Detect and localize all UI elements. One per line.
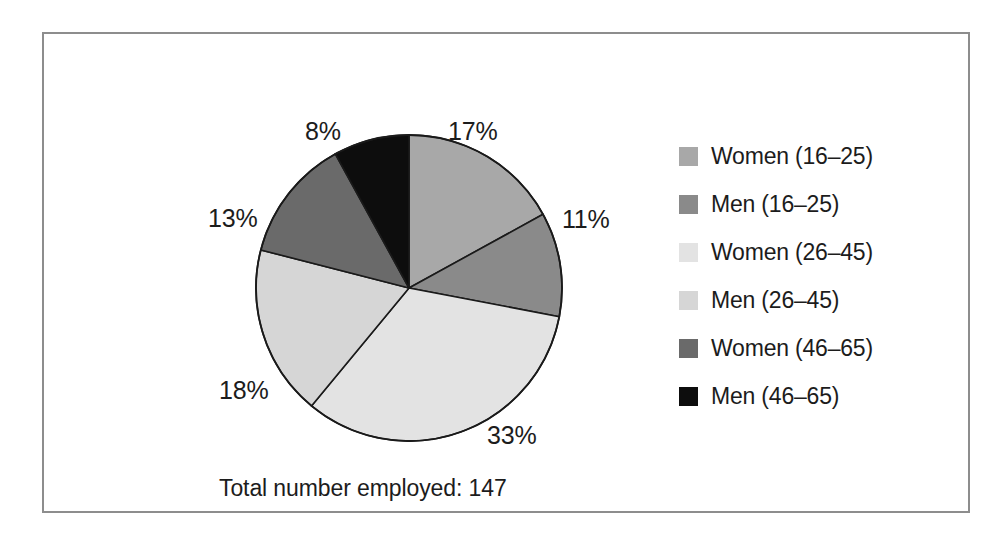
legend-row-0: Women (16–25) — [679, 132, 979, 180]
legend-swatch-icon-3 — [679, 291, 698, 310]
legend-swatch-icon-5 — [679, 387, 698, 406]
legend-row-3: Men (26–45) — [679, 276, 979, 324]
slice-label-men-16-25: 11% — [562, 205, 610, 234]
legend-label-1: Men (16–25) — [711, 191, 839, 218]
chart-frame: 17% 11% 33% 18% 13% 8% Total number empl… — [42, 32, 970, 513]
slice-label-women-26-45: 33% — [487, 421, 536, 450]
legend-label-0: Women (16–25) — [711, 143, 873, 170]
legend-row-4: Women (46–65) — [679, 324, 979, 372]
legend-swatch-icon-2 — [679, 243, 698, 262]
chart-canvas: 17% 11% 33% 18% 13% 8% Total number empl… — [0, 0, 1006, 542]
slice-label-women-46-65: 13% — [208, 204, 257, 233]
legend-row-1: Men (16–25) — [679, 180, 979, 228]
chart-legend: Women (16–25)Men (16–25)Women (26–45)Men… — [679, 132, 979, 420]
legend-swatch-icon-0 — [679, 147, 698, 166]
chart-caption: Total number employed: 147 — [219, 475, 507, 502]
pie-slice-group — [256, 135, 562, 441]
pie-chart — [249, 128, 569, 448]
legend-row-2: Women (26–45) — [679, 228, 979, 276]
slice-label-women-16-25: 17% — [448, 117, 497, 146]
legend-label-5: Men (46–65) — [711, 383, 839, 410]
legend-label-3: Men (26–45) — [711, 287, 839, 314]
legend-label-4: Women (46–65) — [711, 335, 873, 362]
legend-swatch-icon-4 — [679, 339, 698, 358]
slice-label-men-46-65: 8% — [305, 117, 341, 146]
legend-swatch-icon-1 — [679, 195, 698, 214]
legend-label-2: Women (26–45) — [711, 239, 873, 266]
slice-label-men-26-45: 18% — [219, 376, 268, 405]
pie-chart-svg — [249, 128, 569, 448]
legend-row-5: Men (46–65) — [679, 372, 979, 420]
